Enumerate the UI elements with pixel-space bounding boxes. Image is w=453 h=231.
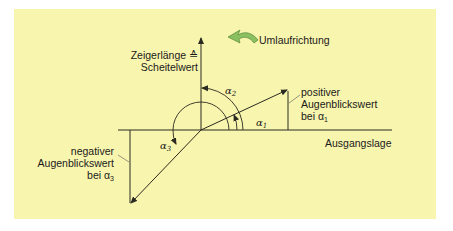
alpha3-symbol: α [160, 140, 167, 151]
negative-label-line2: Augenblickswert [30, 157, 114, 169]
phasor-diagram [0, 0, 453, 231]
positive-label-text: bei α [301, 110, 324, 122]
alpha3-sub: 3 [167, 145, 171, 153]
alpha1-label: α1 [256, 117, 267, 132]
positive-label-line1: positiver [301, 86, 377, 98]
alpha3-label: α3 [160, 140, 171, 155]
alpha3-arc [173, 130, 176, 144]
negative-label-sub: 3 [110, 175, 114, 182]
negative-label-line1: negativer [30, 145, 114, 157]
negative-label-text: bei α [87, 169, 110, 181]
positive-label-sub: 1 [324, 116, 328, 123]
phasor-alpha1 [201, 90, 287, 130]
y-axis-label-line1: Zeigerlänge ≙ [120, 49, 198, 61]
baseline-label: Ausgangslage [325, 137, 392, 149]
alpha1-symbol: α [256, 117, 263, 128]
negative-label-line3: bei α3 [30, 169, 114, 185]
positive-label-line2: Augenblickswert [301, 98, 377, 110]
positive-leader [289, 95, 300, 103]
positive-label-line3: bei α1 [301, 110, 377, 126]
alpha1-arc [234, 115, 237, 130]
positive-value-label: positiver Augenblickswert bei α1 [301, 86, 377, 126]
negative-value-label: negativer Augenblickswert bei α3 [30, 145, 114, 185]
alpha2-symbol: α [225, 85, 232, 96]
negative-leader [118, 155, 129, 162]
rotation-arrow-icon [228, 30, 258, 43]
y-axis-label: Zeigerlänge ≙ Scheitelwert [120, 49, 198, 73]
alpha2-label: α2 [225, 85, 236, 100]
alpha2-sub: 2 [232, 90, 236, 98]
alpha1-sub: 1 [263, 122, 267, 130]
rotation-direction-label: Umlaufrichtung [259, 34, 330, 46]
y-axis-label-line2: Scheitelwert [120, 61, 198, 73]
